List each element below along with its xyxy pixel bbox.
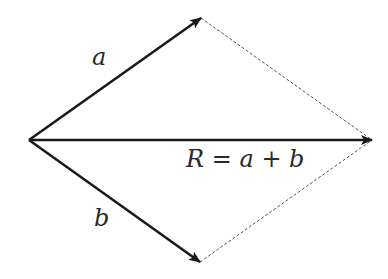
- vector-b-arrow: [29, 140, 200, 262]
- dashed-edge-a-to-r: [201, 18, 372, 140]
- label-resultant: R = a + b: [185, 145, 304, 173]
- vector-a-arrow: [29, 18, 201, 140]
- label-a: a: [92, 43, 106, 71]
- vector-diagram: a b R = a + b: [0, 0, 388, 279]
- label-b: b: [94, 204, 109, 232]
